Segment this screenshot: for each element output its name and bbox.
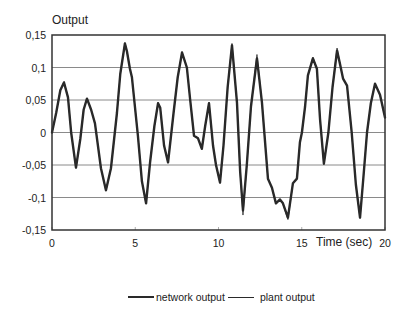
y-tick-label: -0,05	[22, 159, 46, 171]
legend-label-plant-output: plant output	[260, 291, 315, 303]
y-tick-label: 0	[40, 127, 46, 139]
legend-label-network-output: network output	[156, 291, 225, 303]
legend-swatch-network-output	[128, 296, 154, 298]
series-line-network-output	[52, 43, 385, 217]
y-tick-label: 0,05	[26, 94, 47, 106]
y-axis-tick-labels: 0,150,10,050-0,05-0,1-0,15	[22, 29, 46, 236]
x-tick-label: 20	[379, 237, 391, 249]
chart-title: Output	[52, 13, 89, 27]
x-tick-label: 5	[132, 237, 138, 249]
line-chart: Output 0,150,10,050-0,05-0,1-0,15 051015…	[0, 0, 411, 310]
x-tick-label: 0	[49, 237, 55, 249]
series-layer	[52, 43, 385, 220]
x-tick-label: 10	[213, 237, 225, 249]
legend: network output plant output	[128, 290, 315, 304]
x-tick-label: 15	[296, 237, 308, 249]
y-tick-label: 0,1	[31, 62, 46, 74]
y-tick-label: -0,1	[28, 192, 46, 204]
x-axis-label: Time (sec)	[316, 235, 372, 249]
y-tick-label: 0,15	[26, 29, 47, 41]
legend-swatch-plant-output	[228, 297, 254, 298]
y-tick-label: -0,15	[22, 224, 46, 236]
